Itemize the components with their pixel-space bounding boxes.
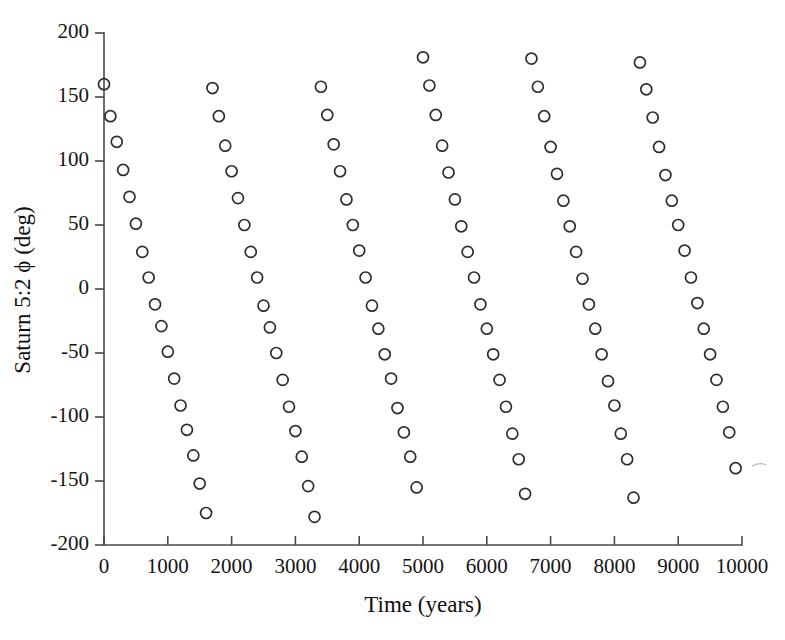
x-tick-label: 3000 [274, 554, 316, 578]
y-tick-label: 0 [79, 275, 90, 299]
x-tick-label: 2000 [211, 554, 253, 578]
y-tick-label: 200 [58, 19, 90, 43]
y-tick-label: -200 [51, 531, 90, 555]
x-tick-label: 7000 [530, 554, 572, 578]
y-tick-label: -150 [51, 467, 90, 491]
y-tick-label: 50 [68, 211, 89, 235]
figure-container: -200-150-100-50050100150200 010002000300… [0, 0, 785, 640]
x-tick-label: 9000 [657, 554, 699, 578]
y-tick-label: 150 [58, 83, 90, 107]
x-tick-label: 0 [99, 554, 110, 578]
x-tick-label: 4000 [338, 554, 380, 578]
y-tick-label: -50 [61, 339, 89, 363]
plot-background [0, 0, 785, 640]
y-axis-title: Saturn 5:2 ϕ (deg) [10, 206, 35, 373]
y-tick-label: 100 [58, 147, 90, 171]
x-axis-title: Time (years) [364, 592, 481, 617]
y-tick-label: -100 [51, 403, 90, 427]
x-tick-label: 1000 [147, 554, 189, 578]
x-tick-label: 10000 [716, 554, 769, 578]
x-tick-label: 6000 [466, 554, 508, 578]
x-tick-label: 5000 [402, 554, 444, 578]
scatter-plot: -200-150-100-50050100150200 010002000300… [0, 0, 785, 640]
x-tick-label: 8000 [593, 554, 635, 578]
